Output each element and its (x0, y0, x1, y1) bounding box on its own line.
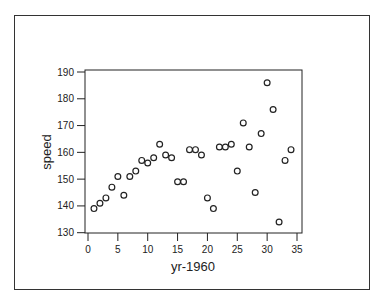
data-point (246, 144, 252, 150)
data-point (276, 219, 282, 225)
data-points (91, 80, 294, 225)
y-tick-label: 180 (57, 93, 74, 104)
data-point (288, 147, 294, 153)
data-point (258, 131, 264, 137)
data-point (240, 120, 246, 126)
x-tick-label: 0 (85, 244, 91, 255)
data-point (205, 195, 211, 201)
data-point (193, 147, 199, 153)
data-point (175, 179, 181, 185)
data-point (282, 157, 288, 163)
data-point (211, 206, 217, 212)
data-point (109, 184, 115, 190)
data-point (145, 160, 151, 166)
data-point (121, 192, 127, 198)
data-point (234, 168, 240, 174)
x-axis: 05101520253035 (85, 233, 303, 255)
data-point (91, 206, 97, 212)
scatter-plot: 130140150160170180190 05101520253035 yr-… (0, 0, 382, 303)
data-point (187, 147, 193, 153)
x-tick-label: 15 (172, 244, 184, 255)
data-point (127, 174, 133, 180)
x-axis-title: yr-1960 (171, 259, 215, 274)
x-tick-label: 30 (262, 244, 274, 255)
data-point (97, 200, 103, 206)
x-tick-label: 5 (115, 244, 121, 255)
x-tick-label: 20 (202, 244, 214, 255)
data-point (270, 107, 276, 113)
data-point (252, 190, 258, 196)
data-point (133, 168, 139, 174)
data-point (115, 174, 121, 180)
data-point (228, 141, 234, 147)
data-point (169, 155, 175, 161)
y-tick-label: 140 (57, 200, 74, 211)
y-tick-label: 160 (57, 147, 74, 158)
data-point (181, 179, 187, 185)
y-tick-label: 150 (57, 174, 74, 185)
data-point (157, 141, 163, 147)
data-point (103, 195, 109, 201)
y-axis: 130140150160170180190 (57, 67, 85, 239)
data-point (264, 80, 270, 86)
data-point (199, 152, 205, 158)
data-point (139, 157, 145, 163)
x-tick-label: 25 (232, 244, 244, 255)
y-tick-label: 190 (57, 67, 74, 78)
y-axis-title: speed (39, 134, 54, 169)
y-tick-label: 170 (57, 120, 74, 131)
data-point (163, 152, 169, 158)
x-tick-label: 35 (291, 244, 303, 255)
data-point (222, 144, 228, 150)
data-point (151, 155, 157, 161)
y-tick-label: 130 (57, 227, 74, 238)
x-tick-label: 10 (142, 244, 154, 255)
data-point (216, 144, 222, 150)
